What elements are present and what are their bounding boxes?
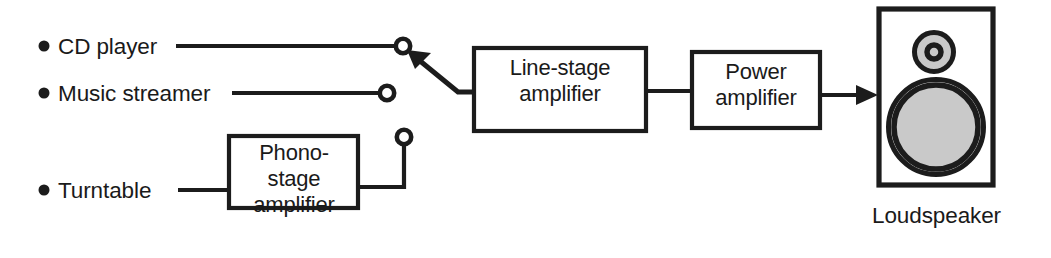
label-music-streamer: Music streamer [58, 81, 210, 108]
wire-phono-stage-to-selector [358, 145, 404, 187]
label-power-amplifier: Power amplifier [694, 59, 818, 111]
label-cd-player: CD player [58, 34, 157, 61]
label-line-stage-line-1: Line-stage [476, 55, 644, 81]
hifi-block-diagram: CD player Music streamer Turntable Phono… [0, 0, 1051, 258]
label-line-stage-line-2: amplifier [476, 81, 644, 107]
bullet-music-streamer [39, 88, 50, 99]
label-phono-stage-amplifier: Phono- stage amplifier [231, 140, 357, 218]
caption-loudspeaker: Loudspeaker [872, 203, 1001, 230]
bullet-turntable [39, 185, 50, 196]
label-turntable: Turntable [58, 178, 151, 205]
label-phono-line-3: amplifier [231, 192, 357, 218]
label-power-line-1: Power [694, 59, 818, 85]
label-power-line-2: amplifier [694, 85, 818, 111]
selector-switch-arm[interactable] [414, 56, 474, 92]
loudspeaker-input-arrowhead [856, 85, 878, 105]
selector-terminal-music-streamer[interactable] [380, 86, 394, 100]
bullet-cd-player [39, 41, 50, 52]
label-phono-line-1: Phono- [231, 140, 357, 166]
label-line-stage-amplifier: Line-stage amplifier [476, 55, 644, 107]
label-phono-line-2: stage [231, 166, 357, 192]
selector-terminal-turntable[interactable] [397, 130, 411, 144]
